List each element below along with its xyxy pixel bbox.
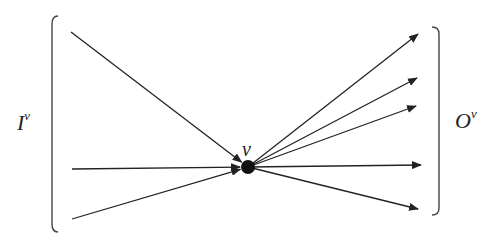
output-bracket	[432, 27, 439, 215]
input-edge	[71, 32, 242, 162]
node-label: ν	[242, 138, 251, 161]
input-edge	[72, 169, 240, 219]
diagram-canvas	[0, 0, 501, 240]
input-edge	[72, 167, 240, 169]
output-edge	[248, 106, 416, 167]
output-edge	[248, 165, 421, 167]
output-set-label: Oν	[455, 108, 477, 134]
output-edge	[248, 167, 418, 209]
input-set-label: Iν	[17, 110, 30, 136]
node	[241, 160, 255, 174]
output-edge	[248, 78, 417, 167]
output-edge	[248, 34, 418, 167]
input-bracket	[52, 16, 58, 232]
